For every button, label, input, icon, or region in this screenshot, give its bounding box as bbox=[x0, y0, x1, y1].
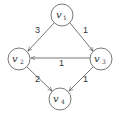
node-label: v bbox=[53, 93, 59, 104]
edge-weight-v1-v2: 3 bbox=[35, 25, 40, 35]
edge-v1-v2 bbox=[28, 23, 54, 51]
edge-v1-v3 bbox=[70, 23, 93, 51]
node-label: v bbox=[12, 53, 18, 64]
node-v4: v 4 bbox=[49, 88, 71, 110]
edge-weight-v3-v2: 1 bbox=[59, 58, 64, 68]
edge-labels: 3 1 1 2 1 bbox=[35, 25, 88, 84]
edge-weight-v1-v3: 1 bbox=[83, 25, 88, 35]
node-subscript: 1 bbox=[63, 14, 67, 21]
node-subscript: 4 bbox=[61, 98, 65, 105]
edge-v3-v4 bbox=[69, 67, 93, 91]
node-v2: v 2 bbox=[8, 48, 30, 70]
node-subscript: 2 bbox=[20, 58, 24, 65]
node-subscript: 3 bbox=[102, 58, 106, 65]
node-label: v bbox=[56, 9, 62, 20]
node-label: v bbox=[94, 53, 100, 64]
node-circle bbox=[51, 4, 73, 26]
edge-weight-v3-v4: 1 bbox=[83, 74, 88, 84]
node-v3: v 3 bbox=[90, 48, 112, 70]
edge-weight-v2-v4: 2 bbox=[35, 74, 40, 84]
node-v1: v 1 bbox=[51, 4, 73, 26]
graph-diagram: 3 1 1 2 1 v 1 v 2 v 3 v 4 bbox=[0, 0, 119, 116]
